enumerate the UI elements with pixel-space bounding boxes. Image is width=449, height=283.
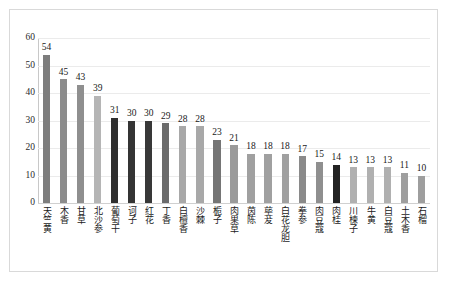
bar-slot: 18 [247,38,254,203]
x-category-label: 肉果草 [230,206,239,233]
bar-slot: 17 [299,38,306,203]
bar-value-label: 11 [400,161,409,171]
bar-value-label: 13 [366,156,376,166]
x-category-label: 天竺黄 [42,206,51,233]
bar-value-label: 17 [297,145,307,155]
x-category-label: 栀子 [212,206,221,224]
x-category-label: 甘草 [76,206,85,224]
y-tick-label: 20 [13,143,35,153]
bar-value-label: 29 [161,112,171,122]
bar[interactable] [418,176,425,204]
y-tick-label: 30 [13,116,35,126]
x-category-label: 木香 [59,206,68,224]
bar-value-label: 21 [229,134,239,144]
plot-wrapper: 0102030405060 54454339313030292828232118… [10,10,437,271]
bar-value-label: 30 [144,109,154,119]
bar-value-label: 31 [110,106,120,116]
bar-slot: 28 [196,38,203,203]
bar[interactable] [264,154,271,204]
bar-value-label: 43 [76,73,86,83]
bar-value-label: 10 [417,164,427,174]
bar-slot: 28 [179,38,186,203]
bar-slot: 45 [60,38,67,203]
bar-value-label: 15 [314,150,324,160]
x-category-label: 肉豆蔻 [315,206,324,233]
x-category-label: 肉桂 [332,206,341,224]
bar[interactable] [60,79,67,203]
x-category-label: 白豆蔻 [383,206,392,233]
bar-slot: 10 [418,38,425,203]
bar[interactable] [384,167,391,203]
bar[interactable] [230,145,237,203]
bar[interactable] [350,167,357,203]
bar-slot: 30 [145,38,152,203]
x-category-label: 红花 [144,206,153,224]
x-category-label: 北沙参 [93,206,102,233]
bar-value-label: 45 [59,68,69,78]
bar-slot: 13 [350,38,357,203]
bar-slot: 14 [333,38,340,203]
bar[interactable] [94,96,101,203]
bar[interactable] [401,173,408,203]
bar-slot: 30 [128,38,135,203]
bar-slot: 31 [111,38,118,203]
x-category-label: 沙棘 [195,206,204,224]
gridline-0 [38,203,430,204]
y-tick-label: 40 [13,88,35,98]
bar[interactable] [213,140,220,203]
y-tick-label: 10 [13,171,35,181]
bar-value-label: 18 [246,142,256,152]
bar-slot: 15 [316,38,323,203]
x-category-label: 白花龙胆 [281,206,290,242]
bar-slot: 11 [401,38,408,203]
bar-value-label: 28 [178,115,188,125]
plot-area: 5445433931303029282823211818181715141313… [38,38,430,203]
bar-value-label: 18 [263,142,273,152]
bar[interactable] [77,85,84,203]
x-category-label: 白檀香 [178,206,187,233]
bar-value-label: 13 [383,156,393,166]
bar[interactable] [128,121,135,204]
bar-value-label: 39 [93,84,103,94]
x-category-label: 诃子 [127,206,136,224]
bar-slot: 21 [230,38,237,203]
bar[interactable] [196,126,203,203]
x-axis-tick-labels: 天竺黄木香甘草北沙参葡萄干诃子红花丁香白檀香沙棘栀子肉果草茵陈荜茇白花龙胆拳参肉… [38,206,430,270]
bar[interactable] [145,121,152,204]
x-category-label: 拳参 [298,206,307,224]
x-category-label: 牛黄 [366,206,375,224]
bar-slot: 13 [367,38,374,203]
bar[interactable] [247,154,254,204]
bar-value-label: 30 [127,109,137,119]
bar-slot: 23 [213,38,220,203]
x-category-label: 川楝子 [349,206,358,233]
bar[interactable] [333,165,340,204]
bar[interactable] [282,154,289,204]
bar-value-label: 18 [280,142,290,152]
bar[interactable] [162,123,169,203]
bar[interactable] [111,118,118,203]
bar-slot: 39 [94,38,101,203]
bar-value-label: 23 [212,128,222,138]
y-axis-tick-labels: 0102030405060 [10,38,35,203]
bar-value-label: 54 [42,43,52,53]
x-category-label: 葡萄干 [110,206,119,233]
bar-slot: 43 [77,38,84,203]
bar[interactable] [179,126,186,203]
chart-container: 0102030405060 54454339313030292828232118… [9,9,438,272]
bar-value-label: 14 [332,153,342,163]
bar[interactable] [367,167,374,203]
bar[interactable] [43,55,50,204]
bar-slot: 13 [384,38,391,203]
bar-slot: 18 [264,38,271,203]
bar-slot: 18 [282,38,289,203]
y-tick-label: 60 [13,33,35,43]
bar[interactable] [316,162,323,203]
x-category-label: 丁香 [161,206,170,224]
bar-value-label: 13 [349,156,359,166]
bar[interactable] [299,156,306,203]
bar-slot: 54 [43,38,50,203]
bar-slot: 29 [162,38,169,203]
bar-value-label: 28 [195,115,205,125]
x-category-label: 土木香 [400,206,409,233]
